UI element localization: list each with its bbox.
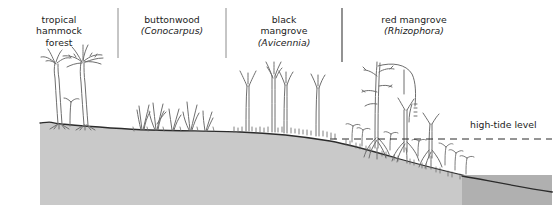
zone-label-tropical-hammock-forest: tropical hammock forest xyxy=(0,14,118,48)
black-mangrove-tree-3 xyxy=(279,71,293,133)
zone-label-black-mangrove: black mangrove (Avicennia) xyxy=(226,14,342,48)
zone-label-line-2: mangrove xyxy=(226,25,342,36)
zone-label-red-mangrove: red mangrove (Rhizophora) xyxy=(342,14,486,37)
zone-label-line-1: tropical xyxy=(0,14,118,25)
palm-tree-1 xyxy=(41,49,70,129)
zone-label-line-1: black xyxy=(226,14,342,25)
zone-label-scientific-name: (Avicennia) xyxy=(226,37,342,48)
vegetation-tropical-hammock-forest xyxy=(41,45,103,130)
mangrove-zonation-diagram: tropical hammock forest buttonwood (Cono… xyxy=(0,0,558,215)
high-tide-level-label: high-tide level xyxy=(470,119,537,130)
zone-label-line-2: hammock xyxy=(0,25,118,36)
zone-label-line-1: red mangrove xyxy=(342,14,486,25)
sapling-1 xyxy=(64,98,79,126)
water-group xyxy=(462,175,552,205)
buttonwood-shrub-3 xyxy=(169,109,181,130)
buttonwood-shrub-1 xyxy=(137,105,150,130)
zone-label-buttonwood: buttonwood (Conocarpus) xyxy=(118,14,226,37)
buttonwood-shrub-4 xyxy=(183,102,199,130)
buttonwood-shrub-2 xyxy=(149,103,166,130)
zone-label-line-1: buttonwood xyxy=(118,14,226,25)
zone-label-scientific-name: (Conocarpus) xyxy=(118,25,226,36)
buttonwood-shrub-5 xyxy=(203,111,213,131)
zone-label-line-3: forest xyxy=(0,37,118,48)
red-mangrove-canopy-arc xyxy=(378,64,417,122)
zone-label-scientific-name: (Rhizophora) xyxy=(342,25,486,36)
red-mangrove-tree-3 xyxy=(419,113,442,169)
vegetation-black-mangrove xyxy=(234,62,335,139)
black-mangrove-tree-1 xyxy=(240,71,256,131)
vegetation-buttonwood xyxy=(133,102,214,131)
red-mangrove-tree-1 xyxy=(362,62,394,159)
black-mangrove-tree-4 xyxy=(311,74,325,136)
